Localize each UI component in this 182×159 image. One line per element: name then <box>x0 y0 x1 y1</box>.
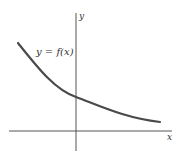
function-graph: y = f(x) y x <box>0 0 182 159</box>
curve-label: y = f(x) <box>35 46 74 57</box>
x-axis-label: x <box>167 132 172 142</box>
y-axis-label: y <box>78 11 85 21</box>
graph-canvas: y = f(x) y x <box>0 0 182 159</box>
